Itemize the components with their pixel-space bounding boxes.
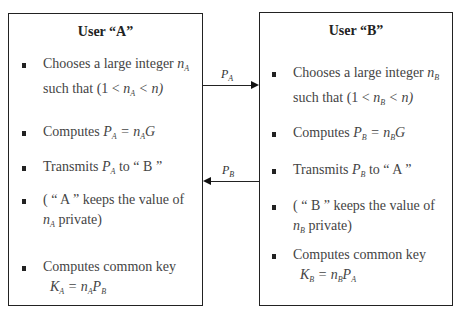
- var: P: [353, 125, 362, 140]
- sub: B: [361, 170, 366, 179]
- cond: < n): [135, 81, 163, 96]
- user-b-step-private: ( “ B ” keeps the value of nB private): [293, 196, 435, 241]
- user-a-title: User “A”: [9, 24, 202, 40]
- var: n: [293, 218, 300, 233]
- step-text: such that: [43, 81, 93, 96]
- step-text: private): [58, 212, 102, 227]
- user-a-step-choose: Chooses a large integer nA such that (1 …: [43, 54, 189, 104]
- sub: A: [111, 167, 116, 176]
- bullet-icon: [22, 166, 26, 171]
- cond: (1 <: [347, 90, 374, 105]
- step-text: ( “ A ” keeps the value of: [43, 192, 184, 207]
- var: = n: [64, 279, 87, 294]
- step-text: to “ A ”: [369, 162, 411, 177]
- var: P: [93, 279, 102, 294]
- user-a-box: User “A” Chooses a large integer nA such…: [8, 13, 203, 306]
- var: P: [352, 162, 361, 177]
- user-b-box: User “B” Chooses a large integer nB such…: [259, 12, 453, 306]
- arrow-head-left-icon: [203, 177, 211, 185]
- sub: B: [229, 170, 234, 179]
- step-text: Computes common key: [293, 247, 426, 262]
- sub: B: [434, 73, 439, 82]
- var: = n: [117, 124, 140, 139]
- step-text: Chooses a large integer: [43, 56, 174, 71]
- step-text: Chooses a large integer: [293, 65, 424, 80]
- var: = n: [314, 267, 337, 282]
- var: G: [395, 125, 405, 140]
- user-b-title: User “B”: [260, 23, 452, 39]
- step-text: private): [308, 218, 352, 233]
- cond: < n): [385, 90, 413, 105]
- user-b-step-choose: Chooses a large integer nB such that (1 …: [293, 63, 439, 113]
- step-text: Transmits: [293, 162, 349, 177]
- sub: B: [300, 226, 305, 235]
- var: G: [145, 124, 155, 139]
- var: P: [343, 267, 352, 282]
- user-a-step-compute: Computes PA = nAG: [43, 122, 155, 147]
- arrow-label-pa: PA: [221, 67, 233, 83]
- var: K: [50, 279, 59, 294]
- arrow-label-pb: PB: [222, 163, 234, 179]
- bullet-icon: [272, 72, 276, 77]
- bullet-icon: [272, 254, 276, 259]
- step-text: Computes: [43, 124, 100, 139]
- var: P: [103, 124, 112, 139]
- bullet-icon: [272, 205, 276, 210]
- sub: A: [50, 220, 55, 229]
- step-text: such that: [293, 90, 343, 105]
- bullet-icon: [22, 199, 26, 204]
- bullet-icon: [22, 63, 26, 68]
- user-b-step-transmit: Transmits PB to “ A ”: [293, 160, 411, 185]
- bullet-icon: [22, 131, 26, 136]
- user-b-step-key: Computes common key KB = nBPA: [293, 245, 426, 290]
- cond: (1 <: [97, 81, 124, 96]
- user-a-step-key: Computes common key KA = nAPB: [43, 257, 176, 302]
- var: K: [300, 267, 309, 282]
- arrow-head-right-icon: [251, 81, 259, 89]
- sub: A: [351, 275, 356, 284]
- step-text: Computes: [293, 125, 350, 140]
- user-a-step-private: ( “ A ” keeps the value of nA private): [43, 190, 184, 235]
- bullet-icon: [272, 169, 276, 174]
- step-text: Computes common key: [43, 259, 176, 274]
- sub: A: [228, 74, 233, 83]
- bullet-icon: [22, 266, 26, 271]
- user-a-step-transmit: Transmits PA to “ B ”: [43, 157, 162, 182]
- user-b-step-compute: Computes PB = nBG: [293, 123, 405, 148]
- sub: B: [101, 287, 106, 296]
- step-text: ( “ B ” keeps the value of: [293, 198, 435, 213]
- bullet-icon: [272, 132, 276, 137]
- sub: A: [184, 64, 189, 73]
- arrow-line: [203, 85, 253, 86]
- var: n: [43, 212, 50, 227]
- var: P: [102, 159, 111, 174]
- step-text: to “ B ”: [119, 159, 162, 174]
- var: = n: [367, 125, 390, 140]
- step-text: Transmits: [43, 159, 99, 174]
- arrow-line: [210, 181, 260, 182]
